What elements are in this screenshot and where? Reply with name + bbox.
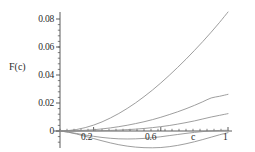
x-tick-label-0.2: 0.2	[81, 132, 92, 142]
curve-1	[60, 12, 228, 131]
x-tick-label-1: 1	[223, 132, 228, 142]
chart-figure: F(c) c 0.08 0.06 0.04 0.02 0 0.2 0.6 1	[0, 0, 255, 152]
curve-2	[60, 94, 228, 131]
y-tick-label-0.04: 0.04	[10, 70, 54, 80]
curves-group	[60, 12, 228, 148]
x-axis-title: c	[191, 131, 195, 142]
y-tick-label-0: 0	[10, 126, 54, 136]
y-tick-label-0.06: 0.06	[10, 42, 54, 52]
curve-3	[60, 114, 228, 131]
y-tick-label-0.02: 0.02	[10, 98, 54, 108]
x-tick-label-0.6: 0.6	[145, 132, 156, 142]
y-tick-label-0.08: 0.08	[10, 14, 54, 24]
axes-group	[54, 12, 232, 148]
